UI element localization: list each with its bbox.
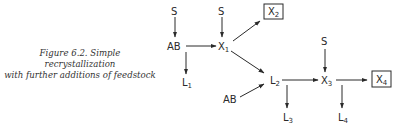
edge-x1-to-x2 xyxy=(233,21,260,41)
node-ab-1: AB xyxy=(167,41,181,52)
edge-x1-to-l2 xyxy=(231,51,264,73)
edges xyxy=(175,17,367,108)
nodes: S AB L1 S X1 X2 L2 AB L3 S X3 L4 X4 xyxy=(167,4,391,125)
node-s-3: S xyxy=(321,36,327,47)
node-ab-2: AB xyxy=(223,94,237,105)
node-x2: X2 xyxy=(268,6,279,19)
node-l4: L4 xyxy=(338,112,349,125)
node-l3: L3 xyxy=(283,112,293,125)
node-l2: L2 xyxy=(270,75,280,88)
edge-ab2-to-l2 xyxy=(240,84,264,97)
flow-diagram: S AB L1 S X1 X2 L2 AB L3 S X3 L4 X4 xyxy=(0,0,393,127)
node-x4: X4 xyxy=(376,74,388,87)
node-x3: X3 xyxy=(321,75,332,88)
node-s-2: S xyxy=(218,6,224,17)
node-x1: X1 xyxy=(218,41,229,54)
node-s-1: S xyxy=(171,6,177,17)
node-l1: L1 xyxy=(182,77,192,90)
